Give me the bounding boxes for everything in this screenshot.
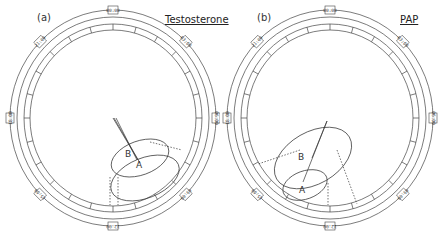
clock-label: 12:00 bbox=[323, 224, 337, 229]
clock-label: 06:00 bbox=[214, 111, 219, 125]
cosinor-plot-b: B A 00:0003:0006:0009:0012:0015:0018:002… bbox=[220, 0, 440, 233]
panel-title: PAP bbox=[400, 14, 418, 25]
point-a-label: A bbox=[136, 160, 143, 170]
clock-label: 00:00 bbox=[106, 8, 120, 13]
panel-testosterone: B A 00:0003:0006:0009:0012:0015:0018:002… bbox=[0, 0, 220, 233]
clock-label: 18:00 bbox=[225, 111, 230, 125]
panel-pap: B A 00:0003:0006:0009:0012:0015:0018:002… bbox=[220, 0, 440, 233]
clock-label: 18:00 bbox=[8, 111, 13, 125]
clock-label: 06:00 bbox=[431, 111, 436, 125]
point-b-label: B bbox=[298, 152, 304, 162]
point-a-label: A bbox=[299, 185, 306, 195]
panel-tag: (a) bbox=[37, 12, 51, 23]
clock-label: 00:00 bbox=[323, 8, 337, 13]
cosinor-plot-a: B A 00:0003:0006:0009:0012:0015:0018:002… bbox=[0, 0, 220, 233]
point-b-label: B bbox=[125, 149, 131, 159]
panel-tag: (b) bbox=[257, 12, 271, 23]
clock-label: 12:00 bbox=[106, 224, 120, 229]
